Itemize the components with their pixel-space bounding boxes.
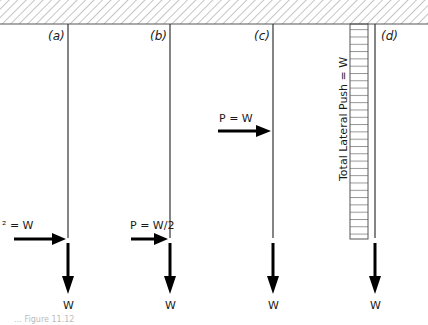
- distributed-load-bar: [350, 24, 368, 239]
- distributed-load-label: Total Lateral Push = W: [338, 57, 349, 181]
- weight-arrow-c: [267, 243, 279, 294]
- ceiling: [0, 0, 428, 24]
- force-label-c: P = W: [219, 113, 253, 124]
- force-label-b: P = W/2: [130, 220, 174, 231]
- lateral-arrow-b: [131, 233, 168, 245]
- lateral-arrow-c: [218, 125, 271, 137]
- weight-label-d: W: [370, 300, 381, 311]
- weight-label-a: W: [63, 300, 74, 311]
- pendulum-lateral-load-diagram: (a) (b) (c) (d) ² = W P = W/2 P = W Tota…: [0, 0, 428, 325]
- figure-caption: … Figure 11.12: [14, 316, 74, 324]
- weight-arrow-d: [369, 243, 381, 294]
- weight-arrow-a: [62, 243, 74, 294]
- weight-label-c: W: [268, 300, 279, 311]
- force-label-a: ² = W: [2, 220, 34, 231]
- case-label-a: (a): [48, 30, 65, 42]
- case-label-b: (b): [150, 30, 167, 42]
- weight-label-b: W: [165, 300, 176, 311]
- case-label-c: (c): [254, 30, 270, 42]
- weight-arrow-b: [164, 243, 176, 294]
- case-label-d: (d): [381, 30, 398, 42]
- lateral-arrow-a: [14, 233, 66, 245]
